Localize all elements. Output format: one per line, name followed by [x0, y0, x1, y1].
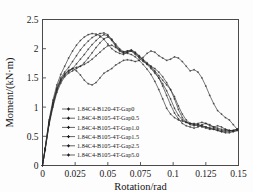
series-line — [43, 51, 238, 165]
x-tick-label: 0.15 — [230, 169, 247, 179]
legend-label: 1.84C4-B120-4T-Gap0 — [77, 105, 134, 112]
chart-legend: 1.84C4-B120-4T-Gap01.84C4-B105-4T-Gap0.5… — [62, 105, 139, 158]
series-markers — [42, 32, 239, 166]
series-markers — [42, 44, 239, 166]
y-tick-label: 2.5 — [27, 15, 39, 25]
legend-label: 1.84C4-B105-4T-Gap5.0 — [77, 151, 139, 158]
y-tick-label: 1.5 — [27, 73, 39, 83]
axes-frame — [43, 20, 239, 166]
x-axis-ticks — [43, 162, 239, 166]
x-axis-title: Rotation/rad — [114, 181, 167, 192]
x-axis-tick-labels: 00.0250.050.0750.10.1250.15 — [40, 169, 247, 179]
x-tick-label: 0.05 — [100, 169, 117, 179]
chart-figure: 00.0250.050.0750.10.1250.15 00.511.522.5… — [0, 0, 253, 192]
moment-rotation-chart: 00.0250.050.0750.10.1250.15 00.511.522.5… — [0, 0, 253, 192]
legend-entry[interactable]: 1.84C4-B105-4T-Gap0.5 — [62, 114, 139, 121]
y-tick-label: 2 — [34, 44, 39, 54]
y-tick-label: 0 — [34, 161, 39, 171]
y-tick-label: 1 — [34, 103, 39, 113]
legend-label: 1.84C4-B105-4T-Gap1.5 — [77, 133, 139, 140]
x-tick-label: 0.075 — [130, 169, 152, 179]
legend-entry[interactable]: 1.84C4-B120-4T-Gap0 — [62, 105, 134, 112]
y-axis-title: Moment/(kN·m) — [4, 57, 16, 127]
x-tick-label: 0 — [40, 169, 45, 179]
legend-entry[interactable]: 1.84C4-B105-4T-Gap5.0 — [62, 151, 139, 158]
plot-frame — [43, 20, 239, 166]
legend-label: 1.84C4-B105-4T-Gap2.5 — [77, 142, 139, 149]
series-markers — [42, 50, 239, 166]
legend-entry[interactable]: 1.84C4-B105-4T-Gap2.5 — [62, 142, 139, 149]
legend-entry[interactable]: 1.84C4-B105-4T-Gap1.0 — [62, 124, 139, 131]
series-markers — [42, 33, 239, 167]
legend-entry[interactable]: 1.84C4-B105-4T-Gap1.5 — [62, 133, 139, 140]
legend-label: 1.84C4-B105-4T-Gap0.5 — [77, 114, 139, 121]
x-tick-label: 0.025 — [64, 169, 86, 179]
legend-label: 1.84C4-B105-4T-Gap1.0 — [77, 124, 139, 131]
y-axis-tick-labels: 00.511.522.5 — [27, 15, 39, 171]
y-tick-label: 0.5 — [27, 132, 39, 142]
x-tick-label: 0.1 — [167, 169, 179, 179]
x-tick-label: 0.125 — [195, 169, 217, 179]
data-curves — [42, 32, 239, 166]
